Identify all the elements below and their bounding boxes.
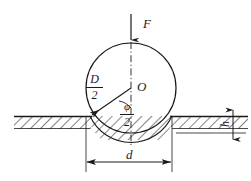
diameter-numerator: D — [86, 73, 103, 86]
angle-denominator: 2 — [120, 116, 134, 129]
force-label: F — [143, 17, 151, 30]
ground-hatch-left — [14, 116, 92, 129]
indent-depth-label: h — [219, 121, 231, 127]
diameter-fraction-label: D 2 — [86, 73, 103, 101]
indent-diameter-label: d — [126, 148, 133, 161]
ground-hatch-right — [170, 116, 248, 129]
diameter-denominator: 2 — [86, 89, 103, 102]
center-point-label: O — [137, 80, 146, 93]
angle-numerator: φ — [120, 101, 134, 113]
angle-fraction-label: φ 2 — [120, 101, 134, 128]
engineering-diagram: F O D 2 φ 2 d h — [0, 0, 251, 181]
